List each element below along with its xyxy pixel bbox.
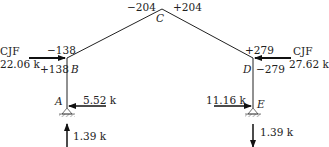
moment-C-right: +204 bbox=[173, 2, 202, 13]
joint-label-D: D bbox=[243, 64, 251, 75]
E-vertical-reaction: 1.39 k bbox=[260, 127, 293, 138]
A-horizontal-reaction: 5.52 k bbox=[83, 95, 116, 106]
right-cjf-value: 27.62 k bbox=[289, 59, 329, 70]
moment-B-side: +138 bbox=[40, 64, 69, 75]
moment-D-side: −279 bbox=[256, 64, 285, 75]
joint-label-C: C bbox=[156, 13, 164, 24]
left-cjf-label: CJF bbox=[0, 46, 20, 57]
moment-C-left: −204 bbox=[127, 2, 156, 13]
E-horizontal-reaction: 11.16 k bbox=[206, 95, 246, 106]
rafter-CD bbox=[162, 9, 253, 58]
left-cjf-value: 22.06 k bbox=[0, 59, 40, 70]
rafter-BC bbox=[67, 9, 162, 58]
moment-D-top: +279 bbox=[245, 45, 274, 56]
A-vertical-reaction: 1.39 k bbox=[73, 131, 106, 142]
joint-label-A: A bbox=[55, 96, 63, 107]
joint-label-E: E bbox=[257, 99, 265, 110]
pin-support-A-icon bbox=[59, 108, 75, 117]
joint-label-B: B bbox=[71, 64, 79, 75]
right-cjf-label: CJF bbox=[293, 46, 313, 57]
moment-B-top: −138 bbox=[47, 45, 76, 56]
